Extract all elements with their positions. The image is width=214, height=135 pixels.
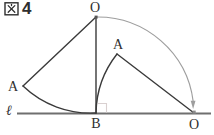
arrowhead-icon — [191, 101, 196, 109]
segment-AO-rotated — [117, 54, 194, 113]
right-angle-icon — [98, 104, 107, 113]
label-O-top: O — [90, 0, 100, 15]
label-A-left: A — [8, 79, 19, 94]
label-A-rotated: A — [113, 37, 124, 52]
label-B: B — [91, 116, 100, 131]
label-O-rotated: O — [189, 117, 199, 132]
label-baseline-l: ℓ — [6, 102, 12, 118]
segment-OA-original — [23, 17, 96, 86]
vertex-dot-O-rotated — [193, 111, 196, 114]
vertex-dot-O-top — [95, 16, 98, 19]
geometry-diagram: O A A B O ℓ — [0, 0, 214, 135]
arc-AB-original — [23, 86, 96, 113]
figure-canvas: 4 O A A B O ℓ — [0, 0, 214, 135]
rotation-arc — [96, 17, 193, 102]
shape-original — [23, 17, 96, 113]
